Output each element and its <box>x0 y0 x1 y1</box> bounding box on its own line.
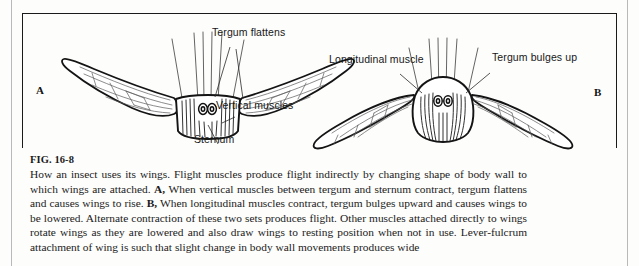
label-vertical-muscles: Vertical muscles <box>216 99 293 111</box>
label-tergum-flattens: Tergum flattens <box>212 26 285 38</box>
label-tergum-bulges-up: Tergum bulges up <box>492 51 577 63</box>
panel-letter-a: A <box>36 84 44 96</box>
panel-a-wing-left <box>62 59 178 116</box>
textbook-figure-page: .outline { fill:#ffffff; stroke:#141414;… <box>0 0 639 266</box>
panel-a-appendages <box>172 32 244 101</box>
label-sternum: Sternum <box>194 133 234 145</box>
figure-caption: FIG. 16-8 How an insect uses its wings. … <box>30 154 527 255</box>
figure-caption-text: How an insect uses its wings. Flight mus… <box>30 167 527 255</box>
figure-number: FIG. 16-8 <box>30 154 527 165</box>
insect-flight-muscle-diagram: .outline { fill:#ffffff; stroke:#141414;… <box>22 13 617 153</box>
column-rule-right <box>627 0 628 266</box>
panel-b-wing-right <box>472 95 573 148</box>
panel-b-wing-left <box>314 95 415 148</box>
panel-letter-b: B <box>594 86 602 98</box>
column-rule-left <box>11 0 12 266</box>
panel-b-thorax <box>413 77 474 142</box>
panel-a-illustration <box>62 32 354 144</box>
label-longitudinal-muscle: Longitudinal muscle <box>329 53 424 65</box>
